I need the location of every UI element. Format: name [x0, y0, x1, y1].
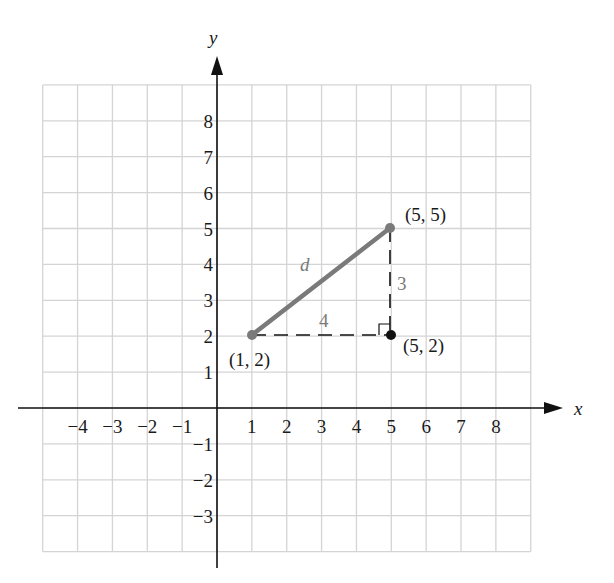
y-tick-label: 8 — [204, 111, 214, 132]
grid-lines — [43, 85, 531, 552]
x-tick-label: 1 — [247, 416, 257, 437]
horizontal-leg-label: 4 — [319, 310, 329, 331]
y-axis-label: y — [207, 27, 218, 48]
y-tick-label: 3 — [204, 290, 214, 311]
point-label-1-2: (1, 2) — [229, 349, 270, 371]
x-tick-labels: −4−3−2−112345678 — [67, 416, 500, 437]
hypotenuse-label: d — [300, 254, 310, 275]
x-tick-label: 3 — [317, 416, 327, 437]
point-5-5-dot — [385, 223, 395, 233]
x-tick-label: −4 — [67, 416, 88, 437]
point-label-5-2: (5, 2) — [403, 335, 444, 357]
point-label-5-5: (5, 5) — [405, 204, 446, 226]
point-5-2-dot — [386, 330, 396, 340]
y-tick-label: 4 — [204, 254, 214, 275]
x-tick-label: −2 — [137, 416, 157, 437]
x-tick-label: −3 — [102, 416, 122, 437]
y-tick-label: 2 — [204, 326, 214, 347]
x-tick-label: 4 — [352, 416, 362, 437]
y-axis-arrow-icon — [211, 56, 223, 75]
x-axis-arrow-icon — [544, 402, 563, 414]
y-tick-label: 1 — [204, 362, 214, 383]
x-axis-label: x — [573, 398, 583, 419]
x-tick-label: 5 — [387, 416, 397, 437]
coordinate-plane-diagram: x y −4−3−2−112345678 87654321−1−2−3 d 4 … — [0, 0, 614, 583]
x-tick-label: 8 — [491, 416, 501, 437]
x-tick-label: 6 — [421, 416, 431, 437]
x-tick-label: 2 — [282, 416, 292, 437]
y-tick-label: 7 — [204, 147, 214, 168]
point-1-2-dot — [247, 330, 257, 340]
y-tick-label: −3 — [193, 506, 213, 527]
y-tick-label: 6 — [204, 183, 214, 204]
y-tick-labels: 87654321−1−2−3 — [193, 111, 214, 527]
x-tick-label: −1 — [172, 416, 192, 437]
y-tick-label: −1 — [193, 434, 213, 455]
vertical-leg-label: 3 — [397, 273, 407, 294]
y-tick-label: −2 — [193, 470, 213, 491]
x-tick-label: 7 — [456, 416, 466, 437]
y-tick-label: 5 — [204, 219, 214, 240]
